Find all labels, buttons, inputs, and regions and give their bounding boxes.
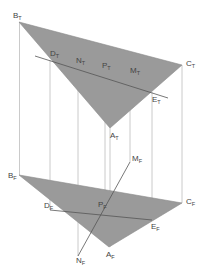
label-a-front: AF xyxy=(106,250,115,260)
front-view-plane xyxy=(19,175,182,247)
label-d-front: DF xyxy=(44,201,54,211)
label-a-top: AT xyxy=(110,131,119,141)
label-b-top: BT xyxy=(13,11,22,21)
top-view-plane xyxy=(19,22,182,128)
label-e-top: ET xyxy=(152,95,161,105)
label-c-front: CF xyxy=(186,197,196,207)
label-b-front: BF xyxy=(8,171,17,181)
projection-diagram: BT CT AT DT NT PT MT ET BF CF AF DF EF P… xyxy=(0,0,199,266)
label-n-front: NF xyxy=(76,256,86,266)
label-e-front: EF xyxy=(151,222,160,232)
label-c-top: CT xyxy=(186,59,196,69)
label-m-front: MF xyxy=(132,154,143,164)
